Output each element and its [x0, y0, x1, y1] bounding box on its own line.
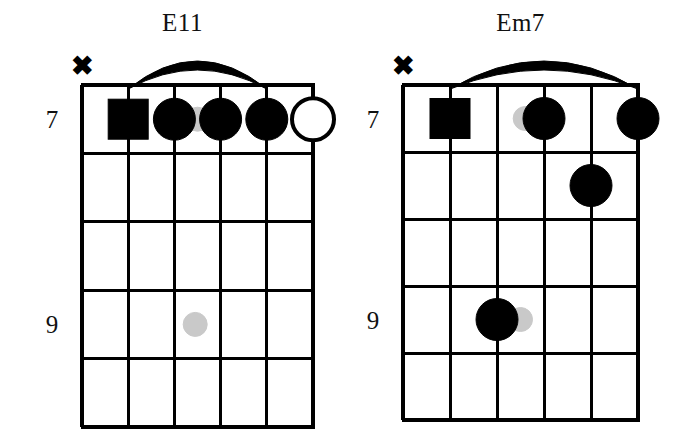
mute-string-icon: ✖	[71, 51, 94, 81]
fretboard-grid: 79✖	[0, 0, 347, 447]
open-string-marker	[292, 98, 334, 140]
finger-marker-circle	[153, 98, 195, 140]
fret-number-label: 7	[367, 106, 380, 133]
fret-number-label: 9	[46, 311, 59, 338]
chord-diagram-em7: Em7 79✖	[347, 0, 694, 447]
finger-marker-circle	[200, 98, 242, 140]
finger-marker-square	[108, 99, 148, 139]
fretboard-grid: 79✖	[347, 0, 694, 447]
finger-marker-square	[430, 99, 470, 139]
chord-diagram-e11: E11 79✖	[0, 0, 347, 447]
fret-number-label: 9	[367, 307, 380, 334]
finger-marker-circle	[617, 98, 659, 140]
finger-marker-circle	[476, 299, 518, 341]
fret-number-label: 7	[46, 106, 59, 133]
finger-marker-circle	[246, 98, 288, 140]
mute-string-icon: ✖	[392, 51, 415, 81]
ghost-note-marker	[183, 312, 207, 336]
finger-marker-circle	[570, 165, 612, 207]
chord-chart-page: E11 79✖ Em7 79✖	[0, 0, 694, 447]
finger-marker-circle	[523, 98, 565, 140]
